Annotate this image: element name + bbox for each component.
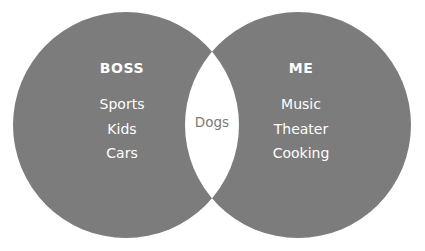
venn-set-right-item-2: Theater [236,117,366,142]
venn-set-right-item-3: Cooking [236,141,366,166]
venn-set-left-item-2: Kids [57,117,187,142]
venn-set-right: ME Music Theater Cooking [236,60,366,166]
venn-labels-layer: BOSS Sports Kids Cars ME Music Theater C… [0,0,425,251]
venn-set-left-item-3: Cars [57,141,187,166]
venn-set-left-item-1: Sports [57,92,187,117]
venn-set-left-title: BOSS [57,60,187,76]
venn-diagram: BOSS Sports Kids Cars ME Music Theater C… [0,0,425,251]
venn-set-left: BOSS Sports Kids Cars [57,60,187,166]
venn-set-right-item-1: Music [236,92,366,117]
venn-intersection-label: Dogs [177,114,247,130]
venn-intersection: Dogs [177,114,247,130]
venn-set-right-title: ME [236,60,366,76]
